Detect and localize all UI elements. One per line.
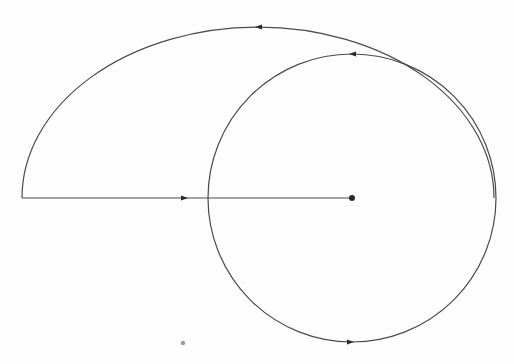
- outer-arc-curve: [22, 27, 494, 198]
- arrow-right-icon: [181, 195, 188, 200]
- center-point: [349, 195, 355, 201]
- contour-diagram: [0, 0, 513, 364]
- arrow-left-icon: [349, 51, 356, 56]
- arrow-left-icon: [255, 24, 262, 29]
- direction-arrows: [181, 24, 356, 344]
- arrow-right-icon: [347, 339, 354, 344]
- diagram-canvas: [0, 0, 513, 364]
- stray-dot: [181, 341, 185, 345]
